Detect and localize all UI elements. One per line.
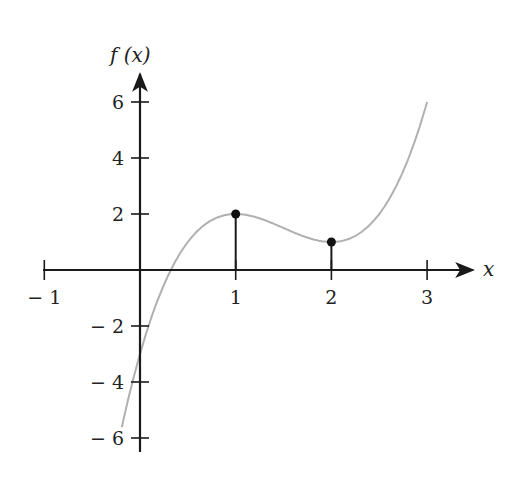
function-curve: [122, 102, 427, 427]
y-tick-label: 4: [112, 147, 124, 169]
x-tick-label: 3: [421, 286, 433, 308]
y-axis-label: f (x): [108, 43, 151, 67]
x-axis-label: x: [483, 257, 494, 281]
marked-point: [327, 238, 336, 247]
function-graph: − 1123− 6− 4− 2246 f (x) x: [0, 0, 521, 477]
y-tick-label: 2: [112, 203, 124, 225]
y-tick-label: − 4: [90, 371, 124, 393]
y-tick-label: − 2: [90, 315, 124, 337]
y-tick-label: − 6: [90, 427, 124, 449]
x-tick-label: − 1: [27, 286, 61, 308]
marked-point: [231, 210, 240, 219]
point-stems: [231, 210, 336, 271]
x-tick-label: 1: [230, 286, 242, 308]
y-tick-label: 6: [112, 91, 124, 113]
x-tick-label: 2: [325, 286, 337, 308]
